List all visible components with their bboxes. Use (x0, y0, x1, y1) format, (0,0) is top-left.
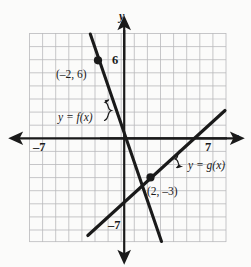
leader-arrow-g (176, 164, 181, 168)
x-tick-label-7: 7 (205, 141, 211, 154)
y-axis-label: y (119, 10, 124, 22)
graph-figure: x y –7 7 6 –7 (–2, 6) (2, –3) y = f(x) y… (0, 0, 251, 267)
point-marker-2-minus3 (146, 173, 154, 181)
y-tick-label-negative-7: –7 (108, 219, 121, 232)
coordinate-plane (0, 0, 251, 267)
point-marker-minus2-6 (94, 56, 102, 64)
function-label-f: y = f(x) (58, 112, 93, 124)
x-axis-label: x (233, 131, 239, 143)
y-tick-label-6: 6 (112, 54, 118, 67)
point-label-2-minus3: (2, –3) (147, 186, 178, 198)
x-tick-label-negative-7: –7 (33, 141, 46, 154)
function-label-g: y = g(x) (188, 160, 225, 172)
point-label-minus2-6: (–2, 6) (56, 69, 87, 81)
